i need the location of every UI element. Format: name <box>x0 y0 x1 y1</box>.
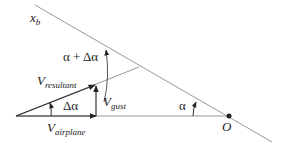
origin-label: O <box>222 119 232 134</box>
alpha-plus-delta-alpha-label: α + Δα <box>63 49 98 64</box>
gust-angle-of-attack-diagram: xb α + Δα Vresultant Δα Vgust Vairplane … <box>0 0 284 147</box>
v-airplane-label: Vairplane <box>47 120 85 137</box>
v-gust-label: Vgust <box>103 94 126 111</box>
origin-point <box>227 114 232 119</box>
xb-label: xb <box>29 10 41 27</box>
alpha-label: α <box>179 98 186 113</box>
alpha-arc <box>193 102 196 116</box>
v-resultant-label: Vresultant <box>37 73 77 90</box>
delta-alpha-label: Δα <box>63 98 78 113</box>
body-axis-line <box>35 5 272 142</box>
delta-alpha-arc <box>50 103 51 116</box>
